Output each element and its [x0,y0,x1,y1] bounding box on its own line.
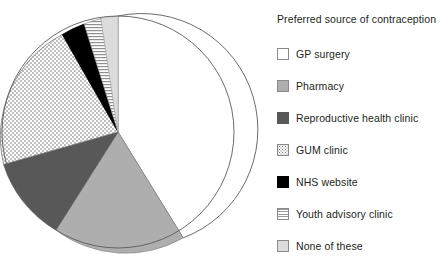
legend-item-youth-advisory-clinic[interactable]: Youth advisory clinic [277,207,393,221]
legend-item-gum-clinic[interactable]: GUM clinic [277,143,348,157]
pie-chart-figure: Preferred source of contraception GP sur… [0,0,447,257]
medium-gray-square-icon [277,80,289,92]
legend-item-label: Youth advisory clinic [296,209,393,220]
legend-item-label: Pharmacy [296,81,344,92]
legend: Preferred source of contraception GP sur… [276,0,447,257]
hatched-square-icon [277,208,289,220]
light-gray-square-icon [277,240,289,252]
pie-chart-svg [0,0,262,257]
black-square-icon [277,176,289,188]
legend-item-none-of-these[interactable]: None of these [277,239,363,253]
legend-item-label: GP surgery [296,49,350,60]
legend-item-nhs-website[interactable]: NHS website [277,175,358,189]
legend-item-gp-surgery[interactable]: GP surgery [277,47,350,61]
white-square-icon [277,48,289,60]
legend-item-reproductive-health-clinic[interactable]: Reproductive health clinic [277,111,418,125]
pie-chart-canvas [0,0,262,257]
legend-item-label: NHS website [296,177,358,188]
dotted-square-icon [277,144,289,156]
legend-item-label: GUM clinic [296,145,348,156]
legend-title: Preferred source of contraception [277,13,436,25]
legend-item-pharmacy[interactable]: Pharmacy [277,79,344,93]
dark-gray-square-icon [277,112,289,124]
legend-item-label: None of these [296,241,363,252]
legend-item-label: Reproductive health clinic [296,113,418,124]
